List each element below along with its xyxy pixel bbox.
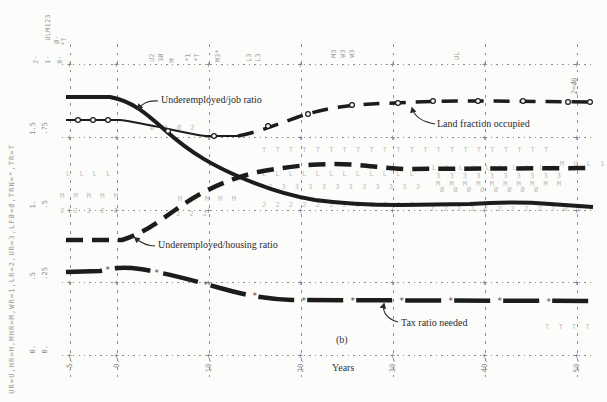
arrow-to-lfo-curve-icon — [412, 108, 435, 124]
lfo-circle-symbol — [350, 103, 355, 108]
lfo-circle-symbol — [306, 112, 311, 117]
lfo-circle-symbol — [91, 118, 96, 123]
tax-ratio-needed-curve — [66, 268, 593, 301]
lfo-circle-symbol — [106, 118, 111, 123]
lfo-circle-symbol — [166, 129, 171, 134]
underemployed-job-ratio-curve — [66, 97, 593, 207]
lfo-circle-symbol — [588, 100, 593, 105]
trn-star-symbol: * — [448, 296, 453, 306]
label-land-fraction-occupied: Land fraction occupied — [437, 118, 530, 129]
trn-star-symbol: * — [203, 280, 208, 290]
lfo-circle-symbol — [396, 101, 401, 106]
label-tax-ratio-needed: Tax ratio needed — [401, 317, 468, 328]
lfo-circle-symbol — [76, 118, 81, 123]
x-axis-title: Years — [332, 362, 354, 373]
trn-star-symbol: * — [497, 296, 502, 306]
trn-star-symbol: * — [546, 297, 551, 307]
arrow-to-uhr-curve-icon — [135, 238, 155, 246]
land-fraction-occupied-curve — [238, 101, 593, 136]
trn-star-symbol: * — [105, 265, 110, 275]
arrow-to-ur-curve-icon — [138, 101, 158, 109]
lfo-circle-symbol — [266, 124, 271, 129]
arrow-to-trn-curve-icon — [384, 304, 398, 322]
lfo-circle-symbol — [566, 100, 571, 105]
panel-label: (b) — [336, 334, 348, 345]
lfo-circle-symbol — [521, 99, 526, 104]
lfo-circle-symbol — [212, 134, 217, 139]
lfo-circle-symbol — [476, 99, 481, 104]
lfo-circle-symbol — [431, 99, 436, 104]
trn-star-symbol: * — [399, 296, 404, 306]
trn-star-symbol: * — [350, 296, 355, 306]
label-underemployed-housing-ratio: Underemployed/housing ratio — [158, 239, 278, 250]
trn-star-symbol: * — [301, 296, 306, 306]
trn-star-symbol: * — [252, 291, 257, 301]
label-underemployed-job-ratio: Underemployed/job ratio — [161, 94, 262, 105]
trn-star-symbol: * — [154, 268, 159, 278]
